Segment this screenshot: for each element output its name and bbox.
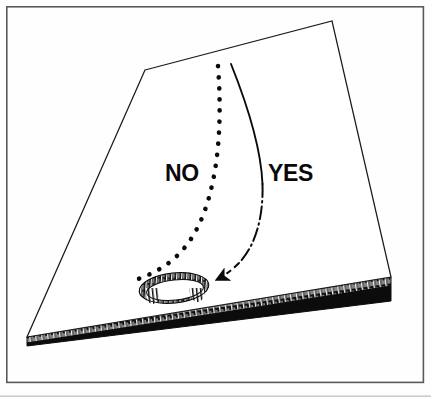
- wooden-board: [27, 21, 391, 346]
- label-no: NO: [165, 160, 199, 186]
- label-yes: YES: [268, 160, 313, 186]
- illustration-canvas: NO YES: [0, 0, 431, 398]
- figure-svg: NO YES: [0, 0, 431, 398]
